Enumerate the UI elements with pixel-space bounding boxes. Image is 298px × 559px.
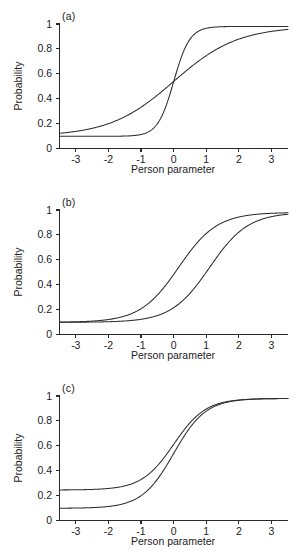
svg-text:1: 1 bbox=[46, 204, 52, 216]
panel-a-ytick-labels: 0 0.2 0.4 0.6 0.8 1 bbox=[37, 18, 52, 155]
svg-text:1: 1 bbox=[203, 153, 209, 165]
svg-text:-2: -2 bbox=[104, 153, 113, 165]
panel-a-xtick-labels: -3 -2 -1 0 1 2 3 bbox=[71, 153, 274, 165]
svg-text:-1: -1 bbox=[136, 525, 145, 537]
svg-text:0: 0 bbox=[46, 514, 52, 526]
svg-text:0: 0 bbox=[171, 153, 177, 165]
panel-b-axes bbox=[56, 210, 288, 338]
panel-c: (c) Probability Person parameter bbox=[0, 372, 298, 558]
panel-c-axes bbox=[56, 396, 288, 524]
panel-a-plot: 0 0.2 0.4 0.6 0.8 1 -3 -2 -1 0 1 2 3 bbox=[0, 0, 298, 186]
svg-text:0.4: 0.4 bbox=[37, 464, 52, 476]
svg-text:0.6: 0.6 bbox=[37, 253, 52, 265]
svg-text:-1: -1 bbox=[136, 339, 145, 351]
panel-b: (b) Probability Person parameter bbox=[0, 186, 298, 372]
svg-text:0.6: 0.6 bbox=[37, 67, 52, 79]
svg-text:2: 2 bbox=[236, 525, 242, 537]
panel-c-xtick-labels: -3 -2 -1 0 1 2 3 bbox=[71, 525, 274, 537]
figure-irt-curves: (a) Probability Person parameter bbox=[0, 0, 298, 559]
svg-text:1: 1 bbox=[46, 390, 52, 402]
svg-text:1: 1 bbox=[46, 18, 52, 30]
svg-text:0.6: 0.6 bbox=[37, 439, 52, 451]
curve-b-easy-item bbox=[60, 213, 289, 322]
curve-c-guessing-025 bbox=[60, 399, 289, 490]
panel-a-curves bbox=[60, 26, 289, 136]
panel-c-ytick-labels: 0 0.2 0.4 0.6 0.8 1 bbox=[37, 390, 52, 527]
svg-text:-3: -3 bbox=[71, 153, 80, 165]
svg-text:0.8: 0.8 bbox=[37, 414, 52, 426]
curve-b-hard-item bbox=[60, 214, 289, 322]
svg-text:2: 2 bbox=[236, 339, 242, 351]
svg-text:3: 3 bbox=[268, 525, 274, 537]
curve-c-guessing-010 bbox=[60, 399, 289, 509]
svg-text:-2: -2 bbox=[104, 339, 113, 351]
svg-text:3: 3 bbox=[268, 153, 274, 165]
svg-text:0.2: 0.2 bbox=[37, 489, 52, 501]
svg-text:1: 1 bbox=[203, 525, 209, 537]
svg-text:0.4: 0.4 bbox=[37, 278, 52, 290]
panel-c-plot: 0 0.2 0.4 0.6 0.8 1 -3 -2 -1 0 1 2 3 bbox=[0, 372, 298, 558]
svg-text:2: 2 bbox=[236, 153, 242, 165]
svg-text:0.8: 0.8 bbox=[37, 228, 52, 240]
svg-text:0.2: 0.2 bbox=[37, 117, 52, 129]
svg-text:0: 0 bbox=[46, 142, 52, 154]
panel-a: (a) Probability Person parameter bbox=[0, 0, 298, 186]
svg-text:0.2: 0.2 bbox=[37, 303, 52, 315]
svg-text:-3: -3 bbox=[71, 339, 80, 351]
svg-text:0: 0 bbox=[46, 328, 52, 340]
svg-text:0: 0 bbox=[171, 339, 177, 351]
svg-text:0: 0 bbox=[171, 525, 177, 537]
svg-text:-3: -3 bbox=[71, 525, 80, 537]
svg-text:0.8: 0.8 bbox=[37, 42, 52, 54]
svg-text:3: 3 bbox=[268, 339, 274, 351]
svg-text:-2: -2 bbox=[104, 525, 113, 537]
panel-b-ytick-labels: 0 0.2 0.4 0.6 0.8 1 bbox=[37, 204, 52, 341]
panel-b-plot: 0 0.2 0.4 0.6 0.8 1 -3 -2 -1 0 1 2 3 bbox=[0, 186, 298, 372]
svg-text:-1: -1 bbox=[136, 153, 145, 165]
panel-b-xtick-labels: -3 -2 -1 0 1 2 3 bbox=[71, 339, 274, 351]
panel-b-curves bbox=[60, 213, 289, 322]
svg-text:0.4: 0.4 bbox=[37, 92, 52, 104]
panel-c-curves bbox=[60, 399, 289, 509]
svg-text:1: 1 bbox=[203, 339, 209, 351]
curve-a-low-discrimination bbox=[60, 29, 289, 133]
